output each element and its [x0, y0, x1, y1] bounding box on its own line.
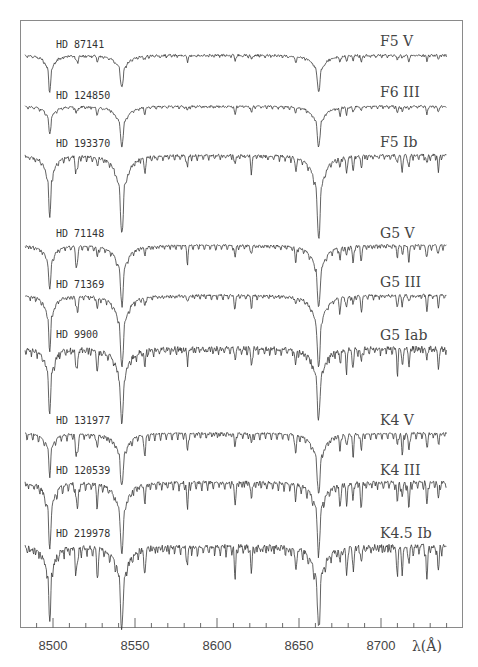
star-label-hd120539: HD 120539 [56, 465, 110, 476]
star-label-hd71369: HD 71369 [56, 279, 104, 290]
type-label-k4v: K4 V [380, 412, 415, 428]
type-label-f5ib: F5 Ib [380, 134, 418, 150]
type-label-f5v: F5 V [380, 33, 414, 49]
x-axis-ticks [37, 618, 447, 628]
spectrum-hd219978 [25, 544, 446, 630]
star-label-hd219978: HD 219978 [56, 528, 110, 539]
spectra-chart: 8500 8550 8600 8650 8700 λ(Å) HD 87141 H… [0, 0, 478, 667]
x-axis-tick-labels: 8500 8550 8600 8650 8700 [39, 638, 396, 653]
type-label-g5iab: G5 Iab [380, 327, 427, 343]
type-label-g5v: G5 V [380, 225, 416, 241]
star-name-labels: HD 87141 HD 124850 HD 193370 HD 71148 HD… [56, 39, 110, 539]
tick-label-8700: 8700 [367, 638, 396, 653]
tick-label-8550: 8550 [121, 638, 150, 653]
spectral-type-labels: F5 V F6 III F5 Ib G5 V G5 III G5 Iab K4 … [380, 33, 432, 541]
type-label-k45ib: K4.5 Ib [380, 525, 432, 541]
tick-label-8600: 8600 [203, 638, 232, 653]
type-label-f6iii: F6 III [380, 84, 420, 100]
star-label-hd124850: HD 124850 [56, 90, 110, 101]
type-label-g5iii: G5 III [380, 274, 421, 290]
star-label-hd9900: HD 9900 [56, 329, 98, 340]
star-label-hd87141: HD 87141 [56, 39, 104, 50]
tick-label-8500: 8500 [39, 638, 68, 653]
star-label-hd71148: HD 71148 [56, 228, 104, 239]
star-label-hd193370: HD 193370 [56, 138, 110, 149]
type-label-k4iii: K4 III [380, 462, 420, 478]
star-label-hd131977: HD 131977 [56, 415, 110, 426]
x-axis-label: λ(Å) [412, 637, 442, 654]
tick-label-8650: 8650 [285, 638, 314, 653]
